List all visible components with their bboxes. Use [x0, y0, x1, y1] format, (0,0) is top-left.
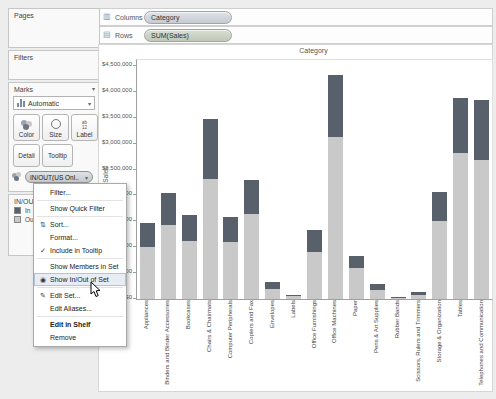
- bar-office-machines[interactable]: [328, 75, 343, 299]
- legend-swatch-icon: [14, 216, 21, 223]
- bar-segment-in[interactable]: [223, 217, 238, 242]
- y-tick-label: $3,500,000: [99, 113, 132, 119]
- detail-button[interactable]: Detail: [13, 144, 40, 167]
- bar-segment-in[interactable]: [391, 297, 406, 298]
- filters-card-title: Filters: [9, 51, 99, 61]
- menu-item-show-members-in-set[interactable]: Show Members in Set: [34, 260, 126, 273]
- bar-binders-and-binder-accessories[interactable]: [161, 193, 176, 299]
- columns-shelf[interactable]: ▥ Columns Category: [98, 8, 493, 26]
- menu-item-filter[interactable]: Filter...: [34, 186, 126, 199]
- x-category-label: Copiers and Fax: [241, 300, 261, 392]
- menu-item-label: Filter...: [50, 189, 71, 196]
- label-button[interactable]: ab12 Label: [71, 114, 98, 141]
- inout-set-pill[interactable]: IN/OUT(US Onl.. ▾: [25, 171, 93, 183]
- bar-segment-in[interactable]: [307, 230, 322, 252]
- bar-computer-peripherals[interactable]: [223, 217, 238, 299]
- bar-segment-in[interactable]: [349, 256, 364, 268]
- bar-appliances[interactable]: [140, 223, 155, 299]
- plot-area[interactable]: [136, 59, 493, 300]
- menu-item-label: Show Members in Set: [50, 263, 118, 270]
- bar-segment-out[interactable]: [223, 242, 238, 299]
- menu-item-include-in-tooltip[interactable]: ✓Include in Tooltip: [34, 244, 126, 257]
- marks-card: Marks ▾ Automatic ▾ Color Size ab12 Labe…: [8, 82, 100, 192]
- bar-segment-out[interactable]: [161, 225, 176, 299]
- inout-pill-caret-icon[interactable]: ▾: [85, 174, 88, 181]
- y-tick-label: $4,000,000: [99, 87, 132, 93]
- bar-copiers-and-fax[interactable]: [244, 180, 259, 299]
- menu-item-remove[interactable]: Remove: [34, 331, 126, 344]
- pages-card[interactable]: Pages: [8, 8, 100, 48]
- bar-scissors-rulers-and-trimmers[interactable]: [411, 292, 426, 299]
- color-button[interactable]: Color: [13, 114, 40, 141]
- bar-segment-in[interactable]: [328, 75, 343, 137]
- size-icon: [51, 119, 61, 129]
- bar-labels[interactable]: [286, 295, 301, 299]
- bar-segment-in[interactable]: [182, 215, 197, 241]
- bar-storage-organization[interactable]: [432, 192, 447, 299]
- menu-separator: [37, 200, 123, 201]
- bar-segment-out[interactable]: [140, 247, 155, 299]
- y-tick-label: $4,500,000: [99, 61, 132, 67]
- bar-segment-in[interactable]: [474, 100, 489, 160]
- category-pill[interactable]: Category: [144, 11, 232, 24]
- bar-telephones-and-communication[interactable]: [474, 100, 489, 299]
- y-tick-label: $2,500,000: [99, 165, 132, 171]
- bar-pens-art-supplies[interactable]: [370, 284, 385, 299]
- bar-segment-out[interactable]: [370, 290, 385, 299]
- bar-segment-in[interactable]: [265, 282, 280, 289]
- filters-card[interactable]: Filters: [8, 50, 100, 80]
- menu-separator: [37, 287, 123, 288]
- marks-caret-icon[interactable]: ▾: [92, 85, 95, 92]
- mark-type-value: Automatic: [28, 100, 59, 107]
- bar-segment-in[interactable]: [203, 119, 218, 179]
- inout-set-pill-label: IN/OUT(US Onl..: [30, 174, 79, 181]
- menu-item-sort[interactable]: ⇅Sort...: [34, 218, 126, 231]
- menu-item-edit-aliases[interactable]: Edit Aliases...: [34, 302, 126, 315]
- bar-segment-out[interactable]: [307, 252, 322, 299]
- bar-envelopes[interactable]: [265, 282, 280, 299]
- x-category-label: Binders and Binder Accessories: [157, 300, 177, 392]
- bar-segment-in[interactable]: [370, 284, 385, 290]
- size-button[interactable]: Size: [42, 114, 69, 141]
- tooltip-button[interactable]: Tooltip: [42, 144, 73, 167]
- tooltip-button-label: Tooltip: [48, 152, 67, 159]
- bar-segment-in[interactable]: [140, 223, 155, 247]
- bar-segment-out[interactable]: [349, 268, 364, 299]
- bar-segment-out[interactable]: [391, 297, 406, 299]
- bar-segment-in[interactable]: [432, 192, 447, 221]
- bar-segment-out[interactable]: [265, 289, 280, 299]
- bar-segment-out[interactable]: [244, 214, 259, 299]
- menu-item-label: Edit Aliases...: [50, 305, 92, 312]
- bar-chairs-chairmats[interactable]: [203, 119, 218, 299]
- menu-item-edit-in-shelf[interactable]: Edit in Shelf: [34, 318, 126, 331]
- bar-paper[interactable]: [349, 256, 364, 299]
- bar-segment-in[interactable]: [244, 180, 259, 214]
- menu-item-format[interactable]: Format...: [34, 231, 126, 244]
- y-tick-label: $3,000,000: [99, 139, 132, 145]
- bar-segment-out[interactable]: [453, 153, 468, 299]
- bar-segment-out[interactable]: [182, 241, 197, 299]
- bar-segment-out[interactable]: [286, 296, 301, 299]
- bar-office-furnishings[interactable]: [307, 230, 322, 299]
- bar-bookcases[interactable]: [182, 215, 197, 299]
- bar-rubber-bands[interactable]: [391, 297, 406, 299]
- bar-segment-out[interactable]: [411, 295, 426, 299]
- bar-segment-in[interactable]: [453, 98, 468, 153]
- bar-segment-out[interactable]: [474, 160, 489, 299]
- bar-segment-in[interactable]: [411, 292, 426, 295]
- menu-separator: [37, 216, 123, 217]
- mark-type-selector[interactable]: Automatic ▾: [13, 96, 95, 110]
- menu-item-edit-set[interactable]: ✎Edit Set...: [34, 289, 126, 302]
- menu-item-show-in-out-of-set[interactable]: ◉Show In/Out of Set: [34, 273, 126, 286]
- bar-tables[interactable]: [453, 98, 468, 299]
- bar-segment-in[interactable]: [286, 295, 301, 297]
- mouse-cursor-icon: [90, 281, 102, 298]
- color-icon: [21, 120, 32, 130]
- rows-shelf[interactable]: ▤ Rows SUM(Sales): [98, 26, 493, 44]
- bar-segment-out[interactable]: [432, 221, 447, 299]
- sum-sales-pill[interactable]: SUM(Sales): [144, 29, 232, 42]
- bar-segment-out[interactable]: [203, 179, 218, 299]
- menu-item-show-quick-filter[interactable]: Show Quick Filter: [34, 202, 126, 215]
- bar-segment-out[interactable]: [328, 137, 343, 299]
- bar-segment-in[interactable]: [161, 193, 176, 225]
